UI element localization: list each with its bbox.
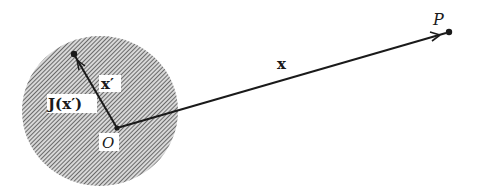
label-position-vector: x [277, 55, 287, 73]
origin-point [114, 125, 119, 130]
current-region [22, 36, 178, 186]
source-point [71, 51, 77, 57]
label-source-vector: x′ [101, 75, 114, 93]
label-current-density: J(x′) [46, 95, 82, 113]
label-field-point: P [432, 10, 444, 29]
label-origin: O [102, 134, 114, 152]
field-point-P [446, 29, 452, 35]
diagram-canvas: x′ J(x′) O x P [0, 0, 479, 191]
